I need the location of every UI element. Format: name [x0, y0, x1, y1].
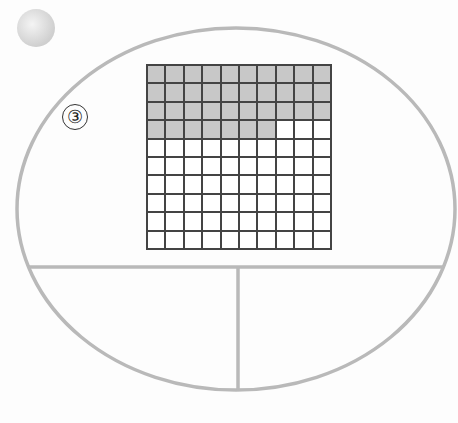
grid-cell-shaded: [239, 102, 257, 120]
grid-cell-shaded: [221, 83, 239, 101]
grid-cell: [239, 231, 257, 249]
grid-cell: [202, 194, 220, 212]
grid-cell: [165, 139, 183, 157]
grid-cell-shaded: [257, 83, 275, 101]
grid-cell-shaded: [313, 102, 331, 120]
grid-cell: [165, 157, 183, 175]
grid-cell-shaded: [165, 120, 183, 138]
grid-cell: [202, 231, 220, 249]
grid-cell: [313, 157, 331, 175]
grid-cell-shaded: [147, 83, 165, 101]
grid-cell: [294, 157, 312, 175]
grid-cell: [184, 212, 202, 230]
grid-cell-shaded: [221, 120, 239, 138]
grid-cell: [257, 194, 275, 212]
grid-cell: [276, 157, 294, 175]
grid-cell: [239, 139, 257, 157]
grid-cell: [165, 175, 183, 193]
grid-cell-shaded: [313, 83, 331, 101]
grid-cell: [239, 212, 257, 230]
grid-cell: [221, 212, 239, 230]
grid-cell-shaded: [147, 102, 165, 120]
grid-cell-shaded: [184, 102, 202, 120]
hundred-grid: [146, 64, 332, 250]
bullet-decoration-icon: [17, 9, 55, 47]
grid-cell-shaded: [147, 120, 165, 138]
grid-cell-shaded: [184, 120, 202, 138]
grid-cell-shaded: [257, 120, 275, 138]
grid-cell: [147, 194, 165, 212]
worksheet-problem: ③: [0, 0, 458, 423]
grid-cell-shaded: [147, 65, 165, 83]
grid-cell-shaded: [202, 102, 220, 120]
grid-cell-shaded: [165, 102, 183, 120]
grid-cell: [165, 231, 183, 249]
grid-cell: [276, 175, 294, 193]
grid-cell: [221, 175, 239, 193]
grid-cell-shaded: [165, 65, 183, 83]
grid-cell-shaded: [294, 65, 312, 83]
grid-cell: [294, 120, 312, 138]
grid-cell: [184, 194, 202, 212]
grid-cell: [165, 212, 183, 230]
grid-cell: [221, 139, 239, 157]
grid-cell: [276, 194, 294, 212]
grid-cell: [294, 139, 312, 157]
grid-cell: [184, 231, 202, 249]
grid-cell: [147, 212, 165, 230]
grid-cell-shaded: [221, 102, 239, 120]
grid-cell-shaded: [239, 120, 257, 138]
problem-number-label: ③: [62, 104, 88, 130]
grid-cell-shaded: [294, 102, 312, 120]
grid-cell-shaded: [276, 102, 294, 120]
grid-cell: [184, 157, 202, 175]
grid-cell: [165, 194, 183, 212]
grid-cell-shaded: [257, 102, 275, 120]
grid-cell-shaded: [202, 65, 220, 83]
grid-cell: [147, 175, 165, 193]
grid-cell: [221, 194, 239, 212]
grid-cell: [294, 231, 312, 249]
grid-cell: [239, 175, 257, 193]
grid-cell: [184, 139, 202, 157]
grid-cell: [202, 175, 220, 193]
grid-cell: [202, 157, 220, 175]
grid-cell-shaded: [239, 65, 257, 83]
answer-box-left[interactable]: [30, 270, 236, 385]
grid-cell-shaded: [239, 83, 257, 101]
grid-cell: [313, 212, 331, 230]
grid-cell: [147, 231, 165, 249]
grid-cell: [294, 175, 312, 193]
grid-cell-shaded: [257, 65, 275, 83]
grid-cell: [313, 194, 331, 212]
grid-cell-shaded: [202, 120, 220, 138]
grid-cell: [221, 231, 239, 249]
grid-cell: [184, 175, 202, 193]
grid-cell: [221, 157, 239, 175]
grid-cell-shaded: [184, 83, 202, 101]
grid-cell-shaded: [276, 65, 294, 83]
grid-cell-shaded: [313, 65, 331, 83]
grid-cell: [147, 157, 165, 175]
grid-cell: [147, 139, 165, 157]
grid-cell: [313, 120, 331, 138]
grid-cell: [257, 175, 275, 193]
grid-cell: [294, 194, 312, 212]
grid-cell: [276, 231, 294, 249]
answer-box-right[interactable]: [240, 270, 446, 385]
grid-cell: [202, 212, 220, 230]
grid-cell: [294, 212, 312, 230]
grid-cell: [257, 212, 275, 230]
grid-cell: [257, 157, 275, 175]
grid-cell: [239, 157, 257, 175]
grid-cell: [202, 139, 220, 157]
grid-cell: [313, 231, 331, 249]
grid-cell: [276, 139, 294, 157]
grid-cell: [257, 231, 275, 249]
grid-cell-shaded: [294, 83, 312, 101]
grid-cell-shaded: [276, 83, 294, 101]
grid-cell: [313, 139, 331, 157]
grid-cell: [313, 175, 331, 193]
grid-cell: [257, 139, 275, 157]
grid-cell: [276, 120, 294, 138]
